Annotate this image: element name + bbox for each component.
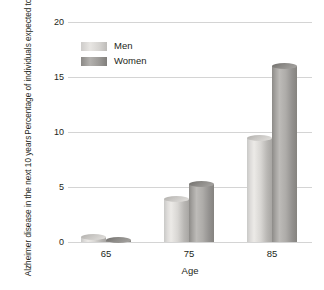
y-axis-title-line-1: Percentage of individuals expected to de… xyxy=(23,0,33,135)
y-tick-10: 10 xyxy=(54,127,64,137)
bar-cap xyxy=(272,63,297,69)
y-tick-5: 5 xyxy=(59,182,64,192)
bar-cap xyxy=(81,234,106,240)
legend-label-women: Women xyxy=(114,56,147,66)
y-axis-title-line-2: Alzheimer disease in the next 10 years xyxy=(23,136,33,277)
y-tick-20: 20 xyxy=(54,17,64,27)
x-tick-65: 65 xyxy=(101,248,112,259)
bar-body xyxy=(272,66,297,242)
bar-women-75[interactable] xyxy=(189,184,214,242)
plot-area: Men Women xyxy=(68,22,312,242)
bar-series-group xyxy=(68,22,312,242)
y-tick-15: 15 xyxy=(54,72,64,82)
x-tick-75: 75 xyxy=(184,248,195,259)
legend-item-women[interactable]: Women xyxy=(81,56,147,66)
axis-baseline xyxy=(68,242,312,243)
men-swatch-icon xyxy=(81,42,107,51)
y-axis-tick-labels: 20 15 10 5 0 xyxy=(36,0,64,290)
y-tick-0: 0 xyxy=(59,237,64,247)
bar-cap xyxy=(247,135,272,141)
women-swatch-icon xyxy=(81,57,107,66)
bar-chart: Percentage of individuals expected to de… xyxy=(0,0,324,290)
bar-women-85[interactable] xyxy=(272,66,297,242)
bar-men-75[interactable] xyxy=(164,199,189,242)
bar-body xyxy=(247,138,272,243)
legend-item-men[interactable]: Men xyxy=(81,41,132,51)
bar-group-85 xyxy=(247,22,298,242)
legend-label-men: Men xyxy=(114,41,132,51)
bar-group-75 xyxy=(164,22,215,242)
bar-men-65[interactable] xyxy=(81,237,106,243)
x-tick-85: 85 xyxy=(267,248,278,259)
bar-men-85[interactable] xyxy=(247,138,272,243)
bar-body xyxy=(164,199,189,242)
bar-cap xyxy=(106,237,131,243)
x-axis-tick-labels: 65 75 85 xyxy=(68,248,312,262)
bar-cap xyxy=(189,181,214,187)
bar-women-65[interactable] xyxy=(106,240,131,242)
x-axis-title: Age xyxy=(68,265,312,276)
bar-body xyxy=(189,184,214,242)
